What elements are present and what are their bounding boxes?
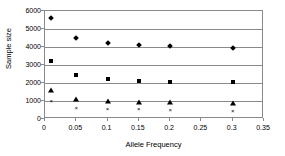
x-tick-mark — [75, 118, 76, 121]
x-tick-label: 0.2 — [164, 124, 174, 131]
x-tick-label: 0.25 — [194, 124, 208, 131]
x-tick-mark — [44, 118, 45, 121]
x-tick-label: 0.35 — [256, 124, 270, 131]
chart-figure: 0100020003000400050006000 00.050.10.150.… — [0, 0, 285, 156]
y-axis-title: Sample size — [4, 14, 13, 84]
x-axis: 00.050.10.150.20.250.30.35 — [0, 0, 285, 156]
x-tick-mark — [263, 118, 264, 121]
x-tick-label: 0 — [42, 124, 46, 131]
x-tick-mark — [107, 118, 108, 121]
x-tick-mark — [138, 118, 139, 121]
x-tick-mark — [169, 118, 170, 121]
x-tick-label: 0.05 — [68, 124, 82, 131]
x-tick-mark — [232, 118, 233, 121]
x-tick-label: 0.1 — [102, 124, 112, 131]
x-tick-label: 0.15 — [131, 124, 145, 131]
x-axis-title: Allele Frequency — [44, 140, 263, 149]
x-tick-label: 0.3 — [227, 124, 237, 131]
x-tick-mark — [200, 118, 201, 121]
